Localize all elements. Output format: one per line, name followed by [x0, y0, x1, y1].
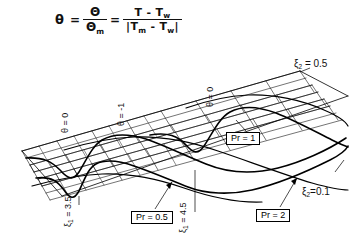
mesh-grid — [22, 71, 348, 200]
annotation-theta-minus-1: θ = -1 — [116, 103, 126, 126]
annotation-theta-0-b: θ = 0 — [205, 87, 215, 107]
annotation-xi2-0.1: ξ2=0.1 — [302, 186, 330, 197]
annotation-theta-0-a: θ = 0 — [60, 113, 70, 133]
annotation-xi2-0.5: ξ2 = 0.5 — [294, 58, 327, 69]
callout-arrowheads — [166, 178, 297, 189]
leader-pr-1 — [236, 120, 246, 131]
annotation-xi1-4.5: ξ1 = 4.5 — [178, 203, 188, 233]
callout-pr-1: Pr = 1 — [226, 132, 260, 145]
arrowhead-pr-2 — [291, 178, 297, 185]
leader-xi2-0.1 — [335, 160, 344, 172]
callout-pr-2: Pr = 2 — [256, 209, 290, 222]
callout-pr-0.5: Pr = 0.5 — [131, 211, 173, 224]
annotation-xi1-3.5: ξ1 = 3.5 — [63, 197, 73, 227]
figure-root: θ = Θ Θm = T - Tw |Tm - Tw| — [0, 0, 357, 249]
